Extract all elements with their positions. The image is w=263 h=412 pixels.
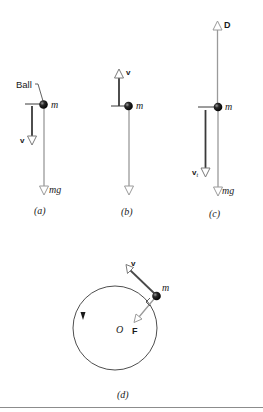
weight-vector-a (40, 106, 49, 195)
velocity-label-b: v (126, 68, 131, 77)
caption-d: (d) (117, 389, 129, 401)
ball-label: Ball (16, 79, 32, 90)
weight-vector-b (125, 108, 134, 195)
center-label-d: O (116, 324, 123, 335)
hollow-arrowhead-icon (28, 136, 37, 145)
velocity-label-d: v (131, 259, 136, 268)
panel-c: m D vt mg (c) (192, 20, 234, 221)
velocity-vector-d (126, 265, 155, 295)
ball-icon (152, 292, 161, 301)
force-vector-d (134, 299, 154, 323)
weight-vector-c (214, 110, 223, 196)
mass-label-b: m (136, 100, 143, 111)
ball-icon (39, 100, 48, 109)
terminal-velocity-label-c: vt (192, 168, 198, 178)
velocity-label-a: v (20, 136, 25, 145)
panel-b: m v (b) (111, 68, 143, 218)
physics-figure: Ball m v mg (a) m v (b) (0, 0, 263, 412)
hollow-arrowhead-icon (213, 21, 222, 30)
panel-d: m v O F (d) (73, 259, 169, 401)
circular-path (73, 286, 157, 370)
ball-icon (124, 102, 133, 111)
hollow-arrowhead-icon (125, 186, 134, 195)
caption-b: (b) (121, 206, 133, 218)
mass-label-d: m (162, 282, 169, 293)
terminal-velocity-vector-c (201, 110, 210, 177)
panel-a: Ball m v mg (a) (16, 79, 61, 217)
drag-vector-c (213, 21, 222, 103)
mass-label-a: m (51, 99, 58, 110)
weight-label-a: mg (49, 184, 61, 195)
caption-a: (a) (34, 205, 46, 217)
force-label-d: F (132, 326, 138, 336)
hollow-arrowhead-icon (115, 69, 124, 78)
hollow-arrowhead-icon (201, 168, 210, 177)
ball-leader-line (35, 84, 43, 101)
direction-arrowhead-icon (81, 312, 86, 320)
weight-label-c: mg (222, 185, 234, 196)
hollow-arrowhead-icon (40, 186, 49, 195)
caption-c: (c) (209, 208, 221, 220)
velocity-vector-a (28, 106, 37, 145)
mass-label-c: m (225, 101, 232, 112)
drag-label-c: D (224, 20, 231, 30)
velocity-vector-b (115, 69, 124, 106)
ball-icon (214, 103, 223, 112)
